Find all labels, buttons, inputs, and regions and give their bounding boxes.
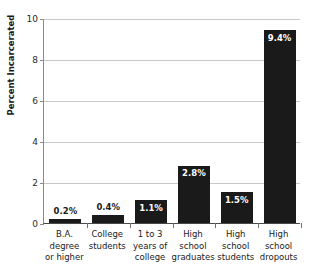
bar-slot: 1.5% (215, 19, 258, 223)
x-tick-mark (173, 223, 174, 228)
x-axis-category-line: years of (129, 241, 172, 253)
x-axis-category-line: college (129, 252, 172, 264)
x-axis-category-label: Highschoolgraduates (172, 229, 215, 264)
x-axis-labels: B.A.degreeor higherCollegestudents1 to 3… (43, 229, 300, 274)
x-axis-category-line: College (86, 229, 129, 241)
x-axis-category-line: students (214, 252, 257, 264)
x-axis-category-label: Highschoolstudents (214, 229, 257, 264)
x-axis-category-line: school (214, 241, 257, 253)
x-axis-category-line: High (172, 229, 215, 241)
x-tick-mark (130, 223, 131, 228)
y-tick-label: 6 (32, 96, 38, 106)
y-tick-label: 0 (32, 219, 38, 229)
x-tick-mark (215, 223, 216, 228)
x-tick-mark (258, 223, 259, 228)
x-axis-category-label: Collegestudents (86, 229, 129, 252)
x-axis-category-line: 1 to 3 (129, 229, 172, 241)
bar-value-label: 0.4% (96, 203, 120, 212)
bar-slot: 0.2% (44, 19, 87, 223)
bars-layer: 0.2%0.4%1.1%2.8%1.5%9.4% (44, 19, 300, 223)
x-axis-category-label: Highschooldropouts (257, 229, 300, 264)
y-tick-mark (40, 224, 44, 225)
y-tick-label: 10 (27, 14, 38, 24)
y-axis-title: Percent Incarcerated (6, 0, 16, 130)
bar-value-label: 1.5% (225, 196, 249, 205)
bar-value-label: 0.2% (54, 207, 78, 216)
x-axis-category-line: B.A. (43, 229, 86, 241)
y-tick-label: 4 (32, 137, 38, 147)
x-axis-category-line: High (214, 229, 257, 241)
x-axis-category-label: 1 to 3years ofcollege (129, 229, 172, 264)
bar-slot: 9.4% (258, 19, 301, 223)
x-axis-category-line: school (257, 241, 300, 253)
bar-value-label: 9.4% (268, 34, 292, 43)
bar[interactable] (49, 219, 81, 223)
bar[interactable] (92, 215, 124, 223)
bar-value-label: 1.1% (139, 204, 163, 213)
x-axis-category-line: students (86, 241, 129, 253)
x-axis-category-line: degree (43, 241, 86, 253)
y-tick-label: 2 (32, 178, 38, 188)
x-axis-category-line: or higher (43, 252, 86, 264)
x-axis-category-line: school (172, 241, 215, 253)
plot-area: 0246810 0.2%0.4%1.1%2.8%1.5%9.4% (43, 19, 300, 224)
y-tick-label: 8 (32, 55, 38, 65)
bar-slot: 1.1% (130, 19, 173, 223)
x-axis-category-line: dropouts (257, 252, 300, 264)
bar-slot: 2.8% (173, 19, 216, 223)
bar[interactable] (264, 30, 296, 223)
x-axis-category-line: graduates (172, 252, 215, 264)
x-axis-category-label: B.A.degreeor higher (43, 229, 86, 264)
bar-value-label: 2.8% (182, 169, 206, 178)
x-tick-mark (301, 223, 302, 228)
x-tick-mark (87, 223, 88, 228)
bar-slot: 0.4% (87, 19, 130, 223)
x-axis-category-line: High (257, 229, 300, 241)
bar-chart: Percent Incarcerated 0246810 0.2%0.4%1.1… (0, 0, 311, 274)
